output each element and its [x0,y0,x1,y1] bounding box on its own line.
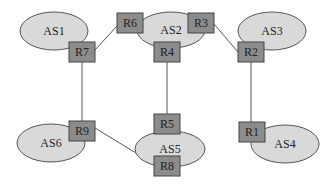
router-label: R4 [160,45,174,59]
router-label: R6 [123,16,137,30]
network-diagram: AS1AS2AS3AS4AS5AS6 R1R2R3R4R5R6R7R8R9 [0,0,334,188]
router-label: R8 [160,159,174,173]
router-node-r2: R2 [238,42,264,62]
router-node-r8: R8 [154,156,180,176]
router-label: R1 [245,125,259,139]
as-layer: AS1AS2AS3AS4AS5AS6 [17,12,319,167]
as-label: AS2 [160,23,181,37]
router-label: R5 [160,117,174,131]
router-node-r9: R9 [69,121,95,141]
router-node-r6: R6 [117,13,143,33]
link-r7-r6 [95,26,117,50]
router-label: R2 [244,45,258,59]
as-label: AS6 [40,136,61,150]
as-label: AS1 [43,24,64,38]
router-node-r3: R3 [188,13,214,33]
router-node-r1: R1 [239,122,265,142]
router-label: R9 [75,124,89,138]
router-node-r4: R4 [154,42,180,62]
router-node-r5: R5 [154,114,180,134]
as-label: AS3 [261,24,282,38]
as-label: AS5 [159,142,180,156]
router-node-r7: R7 [69,42,95,62]
router-label: R3 [194,16,208,30]
link-r3-r2 [214,24,238,52]
as-label: AS4 [274,137,295,151]
router-label: R7 [75,45,89,59]
